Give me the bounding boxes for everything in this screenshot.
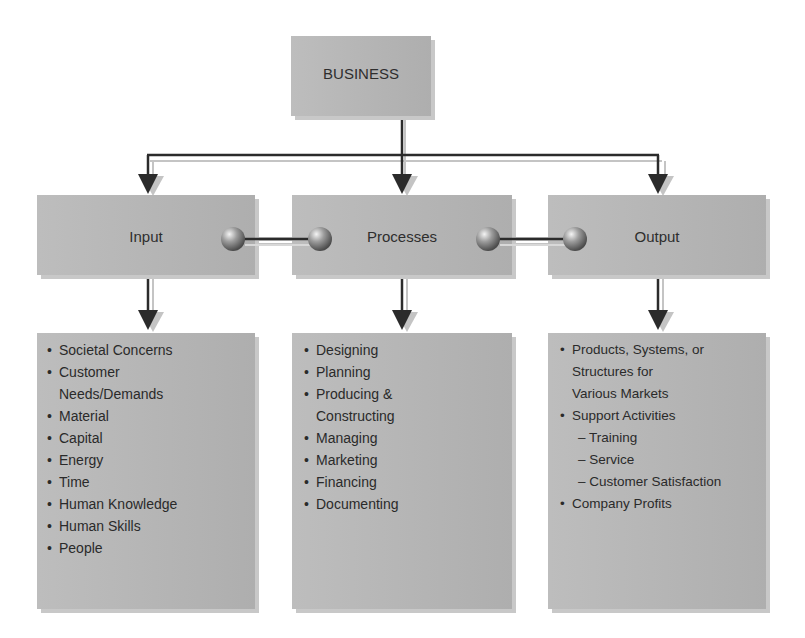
list-item: Designing <box>304 339 399 361</box>
list-item: Products, Systems, or <box>560 339 721 361</box>
list-item: – Training <box>560 427 721 449</box>
list-item: Structures for <box>560 361 721 383</box>
list-item: – Service <box>560 449 721 471</box>
input-list: Societal Concerns Customer Needs/Demands… <box>47 339 177 559</box>
output-detail-box: Products, Systems, or Structures for Var… <box>548 333 766 609</box>
list-item: Human Skills <box>47 515 177 537</box>
list-item: Documenting <box>304 493 399 515</box>
list-item: Needs/Demands <box>47 383 177 405</box>
output-label: Output <box>548 228 766 245</box>
list-item: Material <box>47 405 177 427</box>
list-item: Company Profits <box>560 493 721 515</box>
output-box: Output <box>548 195 766 275</box>
list-item: People <box>47 537 177 559</box>
list-item: Marketing <box>304 449 399 471</box>
list-item: Capital <box>47 427 177 449</box>
input-box: Input <box>37 195 255 275</box>
processes-list: Designing Planning Producing & Construct… <box>304 339 399 515</box>
business-label: BUSINESS <box>291 65 431 82</box>
list-item: Customer <box>47 361 177 383</box>
business-box: BUSINESS <box>291 36 431 116</box>
list-item: Constructing <box>304 405 399 427</box>
processes-detail-box: Designing Planning Producing & Construct… <box>292 333 512 609</box>
output-list: Products, Systems, or Structures for Var… <box>560 339 721 515</box>
input-detail-box: Societal Concerns Customer Needs/Demands… <box>37 333 255 609</box>
processes-label: Processes <box>292 228 512 245</box>
list-item: Energy <box>47 449 177 471</box>
processes-box: Processes <box>292 195 512 275</box>
list-item: Time <box>47 471 177 493</box>
list-item: Support Activities <box>560 405 721 427</box>
list-item: Planning <box>304 361 399 383</box>
list-item: Human Knowledge <box>47 493 177 515</box>
list-item: Societal Concerns <box>47 339 177 361</box>
list-item: Managing <box>304 427 399 449</box>
list-item: Producing & <box>304 383 399 405</box>
list-item: – Customer Satisfaction <box>560 471 721 493</box>
list-item: Financing <box>304 471 399 493</box>
list-item: Various Markets <box>560 383 721 405</box>
input-label: Input <box>37 228 255 245</box>
